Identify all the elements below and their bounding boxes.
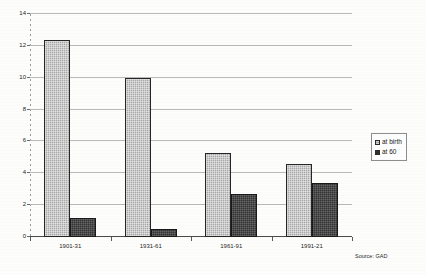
- bar-at-60-1991-21: [312, 183, 338, 237]
- bar-group-1901-31: [30, 14, 111, 237]
- x-axis-labels: 1901-311931-611961-911991-21: [30, 243, 352, 249]
- y-axis-tick-label: 10: [19, 74, 26, 80]
- bar-group-bars: [111, 14, 192, 237]
- legend-label-at-birth: at birth: [382, 139, 402, 146]
- bar-group-1931-61: [111, 14, 192, 237]
- bar-at-birth-1931-61: [125, 78, 151, 237]
- bar-group-bars: [191, 14, 272, 237]
- bar-group-bars: [30, 14, 111, 237]
- source-note: Source: GAD: [355, 253, 387, 259]
- x-axis-tick-mark: [352, 237, 353, 241]
- legend-item-at-birth: at birth: [375, 137, 402, 147]
- y-axis-tick-label: 6: [23, 137, 26, 143]
- bar-group-1991-21: [272, 14, 353, 237]
- y-axis-tick-label: 14: [19, 10, 26, 16]
- y-axis-tick-label: 4: [23, 169, 26, 175]
- x-axis-label-1961-91: 1961-91: [191, 243, 272, 249]
- bar-at-60-1931-61: [151, 229, 177, 237]
- y-axis-tick-label: 12: [19, 42, 26, 48]
- x-axis-label-1991-21: 1991-21: [272, 243, 353, 249]
- legend-label-at-60: at 60: [382, 149, 396, 156]
- x-axis-ticks: [30, 237, 352, 242]
- plot-area: 02468101214: [30, 14, 352, 237]
- chart-legend: at birth at 60: [371, 133, 407, 161]
- y-axis-tick-label: 2: [23, 201, 26, 207]
- legend-swatch-icon-at-birth: [375, 140, 380, 145]
- bar-at-birth-1991-21: [286, 164, 312, 237]
- bar-at-birth-1901-31: [44, 40, 70, 238]
- bar-chart: 02468101214 1901-311931-611961-911991-21…: [0, 0, 426, 274]
- x-axis-tick-mark: [272, 237, 273, 241]
- y-axis-tick-label: 0: [23, 233, 26, 239]
- bar-group-bars: [272, 14, 353, 237]
- y-axis-tick-label: 8: [23, 106, 26, 112]
- x-axis-tick-mark: [191, 237, 192, 241]
- x-axis-tick-mark: [111, 237, 112, 241]
- legend-swatch-icon-at-60: [375, 150, 380, 155]
- bar-groups: [30, 14, 352, 237]
- bar-group-1961-91: [191, 14, 272, 237]
- x-axis-label-1901-31: 1901-31: [30, 243, 111, 249]
- x-axis-tick-mark: [30, 237, 31, 241]
- bar-at-60-1961-91: [231, 194, 257, 237]
- bar-at-birth-1961-91: [205, 153, 231, 237]
- legend-item-at-60: at 60: [375, 147, 402, 157]
- bar-at-60-1901-31: [70, 218, 96, 237]
- x-axis-label-1931-61: 1931-61: [111, 243, 192, 249]
